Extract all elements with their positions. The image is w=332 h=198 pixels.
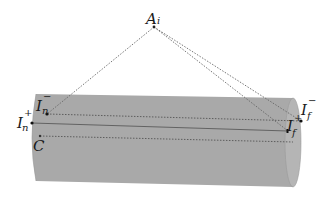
point-near-plus (30, 121, 33, 124)
label-apex-sub: i (157, 16, 160, 26)
label-apex: A i (146, 11, 157, 27)
label-far-minus-sup: − (308, 96, 316, 106)
label-far-plus-sup: + (294, 113, 302, 123)
diagram-canvas: A i I − n I + n C I − f I + f (0, 0, 332, 198)
label-near-minus-sup: − (43, 92, 51, 102)
label-near-plus: I + n (17, 115, 23, 131)
label-center-text: C (33, 137, 44, 155)
cylinder-body (32, 94, 297, 187)
label-far-minus-sub: f (307, 111, 311, 121)
label-near-plus-sup: + (24, 108, 32, 118)
label-near-minus: I − n (36, 98, 42, 114)
label-near-plus-sub: n (22, 123, 28, 133)
label-far-plus-sub: f (292, 128, 296, 138)
label-far-plus: I + f (287, 118, 293, 134)
label-center: C (33, 138, 44, 154)
label-apex-base: A (146, 10, 157, 28)
label-near-minus-sub: n (42, 106, 48, 116)
